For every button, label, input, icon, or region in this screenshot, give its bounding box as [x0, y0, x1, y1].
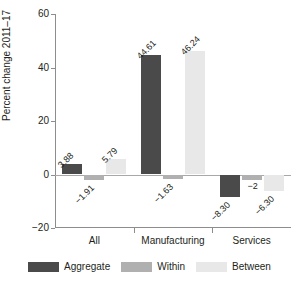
bar-value-label: −2 — [248, 182, 258, 191]
plot-area: 6040200−20 3.88−1.915.7944.61−1.6346.24−… — [55, 14, 291, 228]
x-category-label: All — [89, 236, 100, 246]
bar — [163, 175, 183, 179]
legend-swatch — [28, 262, 59, 272]
y-axis-line — [55, 14, 56, 228]
y-tick-label: 20 — [38, 116, 49, 126]
legend-swatch — [121, 262, 152, 272]
y-tick-mark — [51, 228, 55, 229]
legend-label: Within — [157, 262, 185, 272]
x-category-separator — [212, 228, 213, 233]
x-category-separator — [134, 228, 135, 233]
y-tick-mark — [51, 121, 55, 122]
y-tick-label: 0 — [43, 170, 49, 180]
legend-label: Aggregate — [64, 262, 110, 272]
legend-item[interactable]: Aggregate — [28, 262, 110, 272]
legend-item[interactable]: Within — [121, 262, 185, 272]
bar — [242, 175, 262, 180]
x-category-label: Services — [232, 236, 270, 246]
y-axis-title: Percent change 2011–17 — [2, 10, 12, 121]
bar — [185, 51, 205, 175]
y-tick-mark — [51, 14, 55, 15]
chart-figure: Percent change 2011–17 6040200−20 3.88−1… — [0, 0, 299, 292]
y-tick-label: 60 — [38, 9, 49, 19]
x-category-label: Manufacturing — [141, 236, 204, 246]
y-tick-label: −20 — [32, 223, 49, 233]
bar-value-label: −6.30 — [253, 195, 275, 217]
legend-swatch — [196, 262, 227, 272]
bar — [220, 175, 240, 197]
legend-label: Between — [232, 262, 271, 272]
bar-value-label: −1.63 — [153, 182, 175, 204]
bar-value-label: −8.30 — [209, 200, 231, 222]
y-tick-mark — [51, 68, 55, 69]
legend-item[interactable]: Between — [196, 262, 271, 272]
bar — [264, 175, 284, 192]
bar — [84, 175, 104, 180]
y-tick-label: 40 — [38, 63, 49, 73]
x-axis-line — [55, 227, 291, 228]
bar-value-label: −1.91 — [74, 183, 96, 205]
bar — [141, 55, 161, 174]
chart-legend: AggregateWithinBetween — [0, 262, 299, 272]
